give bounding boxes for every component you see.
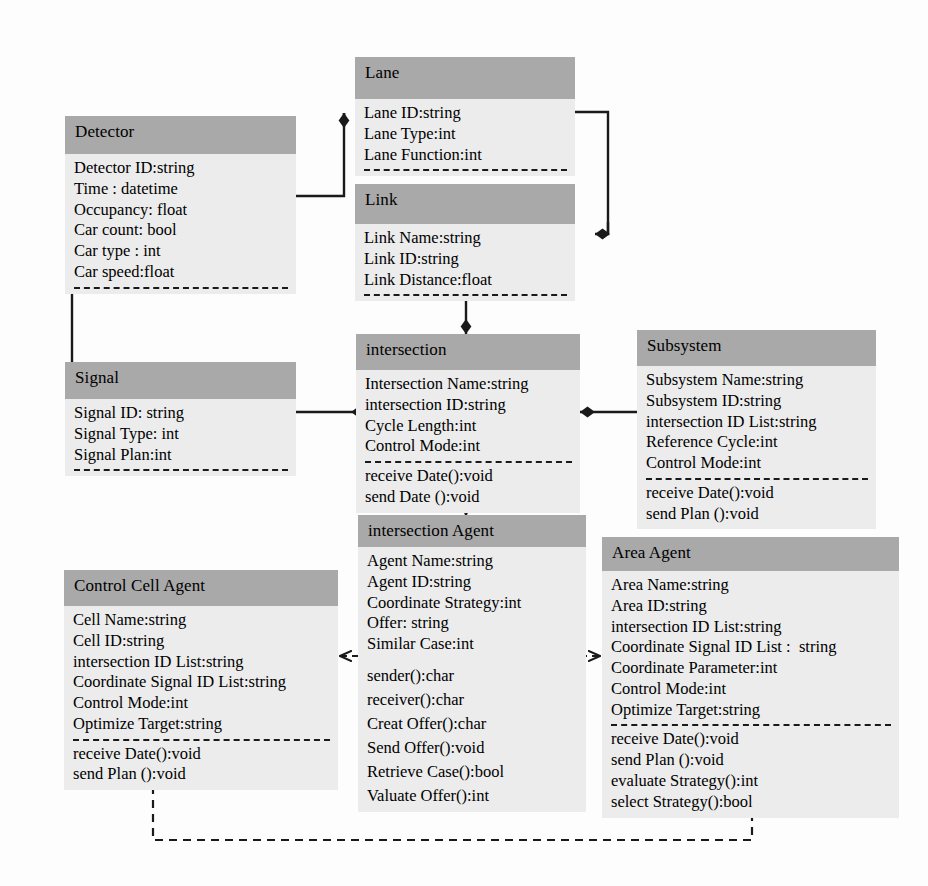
class-member: Subsystem Name:string [646,370,870,391]
class-member: Signal Plan:int [74,445,290,466]
class-member: Optimize Target:string [611,700,893,721]
class-member: Detector ID:string [74,158,290,179]
class-operations-intersection-agent: sender():char receiver():char Creat Offe… [367,661,580,808]
class-separator-signal [74,469,288,471]
class-member: send Date ():void [365,487,574,508]
class-member: receive Date():void [73,744,332,765]
class-operations-area-agent: receive Date():void send Plan ():void ev… [611,726,893,812]
class-body-area-agent: Area Name:string Area ID:string intersec… [602,571,899,818]
class-box-subsystem[interactable]: Subsystem Subsystem Name:string Subsyste… [637,330,876,529]
class-attributes-area-agent: Area Name:string Area ID:string intersec… [611,575,893,723]
class-operations-subsystem: receive Date():void send Plan ():void [646,480,870,525]
class-member: Creat Offer():char [367,712,580,736]
class-member: Send Offer():void [367,736,580,760]
class-separator-detector [74,287,288,289]
class-member: select Strategy():bool [611,792,893,813]
class-member: Retrieve Case():bool [367,760,580,784]
class-body-detector: Detector ID:string Time : datetime Occup… [65,154,296,294]
class-member: receive Date():void [365,466,574,487]
class-body-link: Link Name:string Link ID:string Link Dis… [355,224,575,301]
class-member: Area ID:string [611,596,893,617]
class-member: Similar Case:int [367,634,580,655]
class-member: Link Name:string [364,228,569,249]
class-member: Link ID:string [364,249,569,270]
class-title-intersection: intersection [356,334,580,370]
class-member: Lane ID:string [364,103,569,124]
class-title-signal: Signal [65,362,296,399]
class-body-control-cell-agent: Cell Name:string Cell ID:string intersec… [64,606,338,790]
class-member: receive Date():void [646,483,870,504]
class-member: Intersection Name:string [365,374,574,395]
class-member: Car count: bool [74,220,290,241]
class-title-detector: Detector [65,116,296,154]
class-operations-control-cell-agent: receive Date():void send Plan ():void [73,741,332,786]
class-member: Cycle Length:int [365,416,574,437]
class-member: Lane Type:int [364,124,569,145]
class-separator-lane [364,169,567,171]
class-title-control-cell-agent: Control Cell Agent [64,570,338,606]
uml-class-diagram: Area Agent dependency (bidirectional das… [0,0,928,886]
class-member: Agent ID:string [367,572,580,593]
class-operations-intersection: receive Date():void send Date ():void [365,463,574,508]
class-member: Reference Cycle:int [646,432,870,453]
class-member: Signal ID: string [74,403,290,424]
class-member: sender():char [367,664,580,688]
class-box-lane[interactable]: Lane Lane ID:string Lane Type:int Lane F… [355,57,575,176]
class-member: Offer: string [367,613,580,634]
class-member: Link Distance:float [364,270,569,291]
class-box-area-agent[interactable]: Area Agent Area Name:string Area ID:stri… [602,537,899,818]
class-box-link[interactable]: Link Link Name:string Link ID:string Lin… [355,184,575,301]
class-attributes-subsystem: Subsystem Name:string Subsystem ID:strin… [646,370,870,477]
class-body-subsystem: Subsystem Name:string Subsystem ID:strin… [637,366,876,529]
class-box-control-cell-agent[interactable]: Control Cell Agent Cell Name:string Cell… [64,570,338,790]
class-member: Lane Function:int [364,145,569,166]
class-body-intersection-agent: Agent Name:string Agent ID:string Coordi… [358,547,586,812]
class-attributes-link: Link Name:string Link ID:string Link Dis… [364,228,569,293]
class-member: Valuate Offer():int [367,784,580,808]
class-member: Control Mode:int [611,679,893,700]
class-title-subsystem: Subsystem [637,330,876,366]
class-member: Agent Name:string [367,551,580,572]
class-body-lane: Lane ID:string Lane Type:int Lane Functi… [355,99,575,176]
class-box-detector[interactable]: Detector Detector ID:string Time : datet… [65,116,296,294]
class-title-area-agent: Area Agent [602,537,899,571]
class-member: intersection ID List:string [611,617,893,638]
class-title-intersection-agent: intersection Agent [358,515,586,547]
class-member: Car type : int [74,241,290,262]
class-member: intersection ID List:string [646,412,870,433]
class-attributes-control-cell-agent: Cell Name:string Cell ID:string intersec… [73,610,332,738]
class-box-intersection-agent[interactable]: intersection Agent Agent Name:string Age… [358,515,586,812]
class-box-signal[interactable]: Signal Signal ID: string Signal Type: in… [65,362,296,476]
class-separator-link [364,294,567,296]
class-member: Control Mode:int [73,693,332,714]
class-title-link: Link [355,184,575,224]
class-member: Coordinate Parameter:int [611,658,893,679]
class-member: receiver():char [367,688,580,712]
class-body-signal: Signal ID: string Signal Type: int Signa… [65,399,296,476]
class-member: evaluate Strategy():int [611,771,893,792]
class-box-intersection[interactable]: intersection Intersection Name:string in… [356,334,580,513]
class-member: Cell Name:string [73,610,332,631]
class-member: Cell ID:string [73,631,332,652]
relationship-detector-lane [296,113,344,196]
class-title-lane: Lane [355,57,575,99]
class-member: send Plan ():void [611,750,893,771]
class-attributes-intersection: Intersection Name:string intersection ID… [365,374,574,460]
relationship-lane-link [575,112,608,234]
class-member: Coordinate Signal ID List : string [611,637,893,658]
class-member: Car speed:float [74,262,290,283]
class-member: intersection ID:string [365,395,574,416]
class-member: Control Mode:int [646,453,870,474]
class-member: Coordinate Strategy:int [367,593,580,614]
class-body-intersection: Intersection Name:string intersection ID… [356,370,580,513]
class-member: send Plan ():void [73,764,332,785]
class-member: Subsystem ID:string [646,391,870,412]
class-attributes-lane: Lane ID:string Lane Type:int Lane Functi… [364,103,569,168]
class-member: Control Mode:int [365,436,574,457]
class-member: intersection ID List:string [73,652,332,673]
class-member: Coordinate Signal ID List:string [73,672,332,693]
class-member: Optimize Target:string [73,714,332,735]
class-member: Occupancy: float [74,200,290,221]
class-member: send Plan ():void [646,504,870,525]
class-member: receive Date():void [611,729,893,750]
